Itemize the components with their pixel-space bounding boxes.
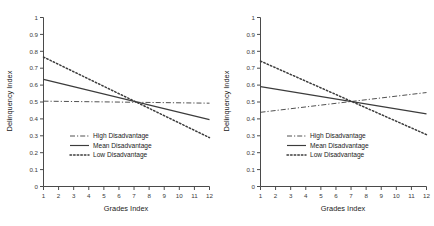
x-tick-label: 9 (380, 192, 384, 199)
x-tick-label: 6 (117, 192, 121, 199)
x-tick-label: 4 (304, 192, 308, 199)
x-tick-label: 3 (72, 192, 76, 199)
right-x-axis-title: Grades Index (321, 204, 366, 213)
y-tick-label: 0.1 (246, 166, 255, 173)
right-y-axis-title: Delinquency Index (222, 70, 231, 131)
right-legend: High Disadvantage Mean Disadvantage Low … (287, 132, 369, 159)
x-tick-label: 10 (393, 192, 400, 199)
y-tick-label: 0.5 (246, 98, 255, 105)
x-tick-label: 1 (259, 192, 263, 199)
left-y-ticklabels: 00.10.20.30.40.50.60.70.80.91 (29, 14, 38, 190)
right-legend-label-high: High Disadvantage (310, 132, 366, 140)
left-y-axis-title: Delinquency Index (5, 70, 14, 131)
y-tick-label: 0.9 (29, 31, 38, 38)
y-tick-label: 0.2 (29, 149, 38, 156)
x-tick-label: 4 (87, 192, 91, 199)
x-tick-label: 12 (206, 192, 213, 199)
right-x-ticklabels: 123456789101112 (259, 192, 431, 199)
y-tick-label: 0.9 (246, 31, 255, 38)
x-tick-label: 5 (102, 192, 106, 199)
left-legend: High Disadvantage Mean Disadvantage Low … (70, 132, 152, 159)
left-x-ticklabels: 123456789101112 (42, 192, 214, 199)
y-tick-label: 0.5 (29, 98, 38, 105)
x-tick-label: 5 (319, 192, 323, 199)
x-tick-label: 8 (364, 192, 368, 199)
y-tick-label: 0.7 (246, 64, 255, 71)
left-chart-panel: 00.10.20.30.40.50.60.70.80.91 1234567891… (0, 0, 217, 226)
x-tick-label: 10 (176, 192, 183, 199)
right-y-ticklabels: 00.10.20.30.40.50.60.70.80.91 (246, 14, 255, 190)
y-tick-label: 1 (35, 14, 39, 21)
right-plot-area: 00.10.20.30.40.50.60.70.80.91 1234567891… (246, 14, 430, 199)
x-tick-label: 7 (349, 192, 353, 199)
right-chart-svg: 00.10.20.30.40.50.60.70.80.91 1234567891… (217, 0, 434, 226)
left-y-ticks (40, 18, 44, 187)
x-tick-label: 2 (274, 192, 278, 199)
right-y-ticks (257, 18, 261, 187)
series-line-dashdot (44, 101, 210, 103)
left-chart-svg: 00.10.20.30.40.50.60.70.80.91 1234567891… (0, 0, 217, 226)
left-plot-area: 00.10.20.30.40.50.60.70.80.91 1234567891… (29, 14, 213, 199)
y-tick-label: 0.3 (29, 132, 38, 139)
left-legend-label-low: Low Disadvantage (93, 151, 148, 159)
y-tick-label: 0.6 (246, 81, 255, 88)
right-legend-label-low: Low Disadvantage (310, 151, 365, 159)
y-tick-label: 0.8 (246, 48, 255, 55)
y-tick-label: 0 (252, 183, 256, 190)
series-line-solid (44, 79, 210, 119)
right-x-ticks (261, 187, 427, 191)
x-tick-label: 9 (163, 192, 167, 199)
x-tick-label: 2 (57, 192, 61, 199)
left-series-lines (44, 57, 210, 138)
y-tick-label: 0.7 (29, 64, 38, 71)
right-chart-panel: 00.10.20.30.40.50.60.70.80.91 1234567891… (217, 0, 434, 226)
x-tick-label: 6 (334, 192, 338, 199)
y-tick-label: 0 (35, 183, 39, 190)
y-tick-label: 1 (252, 14, 256, 21)
y-tick-label: 0.6 (29, 81, 38, 88)
x-tick-label: 8 (147, 192, 151, 199)
x-tick-label: 3 (289, 192, 293, 199)
y-tick-label: 0.3 (246, 132, 255, 139)
y-tick-label: 0.1 (29, 166, 38, 173)
left-x-ticks (44, 187, 210, 191)
x-tick-label: 7 (132, 192, 136, 199)
x-tick-label: 1 (42, 192, 46, 199)
series-line-dotted (261, 61, 427, 135)
y-tick-label: 0.4 (29, 115, 38, 122)
left-x-axis-title: Grades Index (104, 204, 149, 213)
series-line-dotted (44, 57, 210, 138)
right-legend-label-mean: Mean Disadvantage (310, 142, 369, 150)
x-tick-label: 11 (191, 192, 198, 199)
y-tick-label: 0.8 (29, 48, 38, 55)
right-series-lines (261, 61, 427, 135)
two-panel-line-chart-figure: 00.10.20.30.40.50.60.70.80.91 1234567891… (0, 0, 434, 226)
x-tick-label: 12 (423, 192, 430, 199)
y-tick-label: 0.2 (246, 149, 255, 156)
left-legend-label-mean: Mean Disadvantage (93, 142, 152, 150)
y-tick-label: 0.4 (246, 115, 255, 122)
x-tick-label: 11 (408, 192, 415, 199)
left-legend-label-high: High Disadvantage (93, 132, 149, 140)
